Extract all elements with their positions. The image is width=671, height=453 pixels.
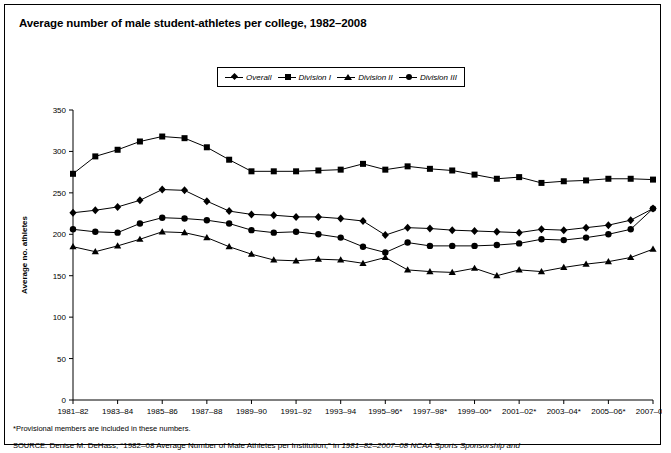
data-point (159, 134, 165, 140)
data-point (226, 220, 232, 226)
data-point (449, 243, 455, 249)
data-point (159, 228, 166, 234)
data-point (494, 242, 500, 248)
data-point (293, 168, 299, 174)
series-division-i (70, 134, 656, 186)
data-point (427, 166, 433, 172)
data-point (338, 167, 344, 173)
data-point (337, 215, 344, 223)
data-point (181, 186, 188, 194)
chart-plot-area: 050100150200250300350Average no. athlete… (5, 5, 662, 446)
data-point (137, 138, 143, 144)
data-point (605, 176, 611, 182)
data-point (427, 243, 433, 249)
data-point (360, 161, 366, 167)
data-point (583, 177, 589, 183)
y-tick-label: 100 (53, 313, 67, 322)
y-tick-label: 0 (62, 396, 67, 405)
data-point (471, 227, 478, 235)
data-point (650, 205, 656, 211)
data-point (270, 211, 277, 219)
series-division-ii (69, 228, 656, 278)
data-point (114, 203, 121, 211)
data-point (426, 224, 433, 232)
data-point (472, 172, 478, 178)
source-line: SOURCE: Denise M. DeHass, “1982–08 Avera… (13, 441, 520, 450)
x-tick-label: 1981–82 (57, 407, 89, 416)
data-point (360, 244, 366, 250)
x-tick-label: 2003–04* (547, 407, 581, 416)
data-point (226, 207, 233, 215)
x-tick-label: 1991–92 (280, 407, 312, 416)
data-point (136, 196, 143, 204)
y-tick-label: 350 (53, 106, 67, 115)
data-point (159, 186, 166, 194)
data-point (204, 144, 210, 150)
data-point (182, 135, 188, 141)
data-point (181, 215, 187, 221)
data-point (114, 229, 120, 235)
data-point (226, 157, 232, 163)
y-tick-label: 250 (53, 189, 67, 198)
data-point (538, 180, 544, 186)
data-point (115, 147, 121, 153)
x-tick-label: 1985–86 (147, 407, 179, 416)
data-point (649, 246, 656, 252)
data-point (137, 220, 143, 226)
data-point (382, 231, 389, 239)
data-point (561, 178, 567, 184)
x-tick-label: 2005–06* (591, 407, 625, 416)
data-point (315, 256, 322, 262)
data-point (315, 231, 321, 237)
data-point (516, 174, 522, 180)
data-point (248, 210, 255, 218)
data-point (70, 226, 76, 232)
y-tick-label: 150 (53, 272, 67, 281)
y-axis-label: Average no. athletes (20, 215, 29, 294)
data-point (92, 206, 99, 214)
data-point (449, 226, 456, 234)
data-point (449, 167, 455, 173)
chart-axes (73, 110, 653, 400)
data-point (315, 167, 321, 173)
data-point (538, 236, 544, 242)
x-tick-label: 1989–90 (236, 407, 268, 416)
data-point (561, 237, 567, 243)
data-point (204, 217, 210, 223)
data-point (337, 234, 343, 240)
data-point (404, 239, 410, 245)
data-point (359, 217, 366, 225)
data-point (583, 234, 589, 240)
data-point (382, 249, 388, 255)
x-tick-label: 1983–84 (102, 407, 134, 416)
data-point (271, 168, 277, 174)
series-overall (69, 186, 656, 240)
data-point (650, 177, 656, 183)
data-point (92, 153, 98, 159)
data-point (69, 243, 76, 249)
x-tick-label: 1993–94 (325, 407, 357, 416)
data-point (293, 229, 299, 235)
data-point (628, 176, 634, 182)
footnote: *Provisional members are included in the… (13, 424, 191, 433)
x-tick-label: 1995–96* (368, 407, 402, 416)
source-prefix: SOURCE: (13, 441, 47, 450)
data-point (404, 224, 411, 232)
data-point (516, 229, 523, 237)
data-point (248, 227, 254, 233)
data-point (382, 167, 388, 173)
series-line (73, 190, 653, 236)
data-point (538, 225, 545, 233)
data-point (627, 226, 633, 232)
data-point (493, 228, 500, 236)
data-point (92, 229, 98, 235)
data-point (203, 197, 210, 205)
data-point (605, 231, 611, 237)
y-tick-label: 300 (53, 147, 67, 156)
data-point (560, 226, 567, 234)
source-italic: 1981–82–2007–08 NCAA Sports Sponsorship … (341, 441, 520, 450)
data-point (494, 176, 500, 182)
data-point (605, 221, 612, 229)
series-line (73, 137, 653, 183)
data-point (315, 213, 322, 221)
